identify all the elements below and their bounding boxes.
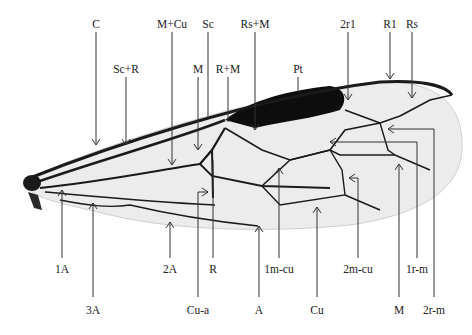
lower-label-1a: 1A: [55, 264, 69, 276]
top-label-m-cu: M+Cu: [157, 19, 187, 31]
bottom-label-a: A: [255, 305, 263, 317]
lower-label-1r-m: 1r-m: [406, 264, 428, 276]
top-label-c: C: [92, 19, 100, 31]
top-label-rs: Rs: [406, 19, 418, 31]
lower-label-2m-cu: 2m-cu: [343, 264, 372, 276]
top-label-2r1: 2r1: [340, 19, 355, 31]
lower-label-1m-cu: 1m-cu: [264, 264, 293, 276]
mid-label-r-m: R+M: [216, 64, 240, 76]
bottom-label-cu: Cu: [310, 305, 323, 317]
lower-label-r: R: [209, 264, 217, 276]
bottom-label-m: M: [394, 305, 404, 317]
mid-label-m: M: [193, 64, 203, 76]
top-label-rs-m: Rs+M: [241, 19, 270, 31]
lower-label-2a: 2A: [163, 264, 177, 276]
wing-base: [23, 175, 41, 191]
mid-label-sc-r: Sc+R: [113, 64, 139, 76]
mid-label-pt: Pt: [293, 64, 303, 76]
top-label-sc: Sc: [202, 19, 214, 31]
wing-diagram: [0, 0, 472, 335]
bottom-label-3a: 3A: [86, 305, 100, 317]
top-label-r1: R1: [383, 19, 396, 31]
bottom-label-cu-a: Cu-a: [187, 305, 209, 317]
bottom-label-2r-m: 2r-m: [423, 305, 445, 317]
